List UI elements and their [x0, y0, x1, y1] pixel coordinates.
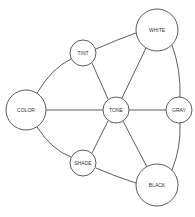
node-color: COLOR — [6, 90, 46, 130]
node-shade-label: SHADE — [74, 160, 92, 166]
node-color-label: COLOR — [17, 107, 35, 113]
edge-gray-black — [172, 123, 180, 170]
node-black: BLACK — [136, 164, 178, 206]
node-white: WHITE — [136, 9, 178, 51]
color-theory-diagram: COLOR TINT WHITE TONE GRAY SHADE BLACK — [0, 0, 195, 217]
node-tone-label: TONE — [109, 107, 123, 113]
node-black-label: BLACK — [149, 182, 166, 188]
node-tint-label: TINT — [77, 50, 88, 56]
edge-shade-color — [37, 127, 71, 157]
node-gray: GRAY — [166, 97, 192, 123]
nodes-layer: COLOR TINT WHITE TONE GRAY SHADE BLACK — [6, 9, 192, 206]
edge-tone-black — [123, 121, 147, 167]
node-white-label: WHITE — [149, 27, 166, 33]
edge-color-tint — [37, 59, 71, 93]
node-shade: SHADE — [70, 150, 96, 176]
edge-black-shade — [96, 168, 136, 183]
node-tone: TONE — [103, 97, 129, 123]
edge-tone-shade — [92, 121, 108, 153]
edge-tint-tone — [92, 63, 108, 99]
edge-white-tone — [122, 48, 146, 98]
node-gray-label: GRAY — [172, 107, 186, 113]
node-tint: TINT — [70, 40, 96, 66]
edge-tint-white — [96, 33, 136, 49]
edge-white-gray — [172, 45, 180, 97]
